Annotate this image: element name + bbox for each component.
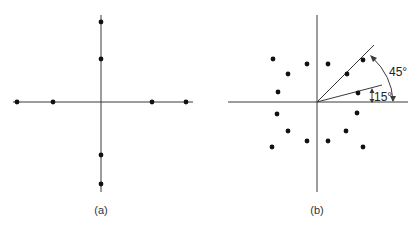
point (286, 72, 291, 77)
panel-a-label: (a) (94, 204, 107, 216)
point (276, 90, 281, 95)
point (326, 139, 331, 144)
point (51, 100, 56, 105)
point (184, 100, 189, 105)
point (326, 62, 331, 67)
point (286, 129, 291, 134)
panel-a: (a) (13, 15, 193, 216)
panel-b: 45° 15° (b) (228, 15, 408, 216)
point (271, 57, 276, 62)
point (345, 72, 350, 77)
point (99, 57, 104, 62)
angle-label-15: 15° (374, 90, 392, 104)
angle-label-45: 45° (389, 65, 407, 79)
point (99, 182, 104, 187)
point (361, 58, 366, 63)
point (15, 100, 20, 105)
point (270, 145, 275, 150)
point (99, 153, 104, 158)
point (99, 20, 104, 25)
point (305, 62, 310, 67)
point (275, 112, 280, 117)
point (361, 145, 366, 150)
point (355, 111, 360, 116)
point (356, 91, 361, 96)
diagram-canvas: (a) (0, 0, 420, 229)
point (150, 100, 155, 105)
panel-b-label: (b) (310, 204, 323, 216)
point (344, 129, 349, 134)
point (305, 139, 310, 144)
